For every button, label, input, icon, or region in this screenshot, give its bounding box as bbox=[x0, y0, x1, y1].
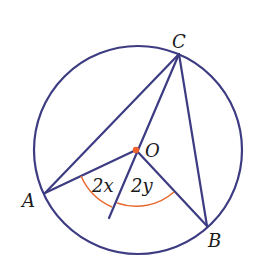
center-point-o bbox=[133, 147, 139, 153]
label-c: C bbox=[172, 31, 186, 52]
angle-label-2x: 2x bbox=[91, 175, 114, 196]
label-a: A bbox=[20, 190, 35, 211]
label-o: O bbox=[145, 140, 160, 161]
label-b: B bbox=[207, 230, 221, 251]
angle-label-2y: 2y bbox=[130, 175, 153, 196]
circle-diagram: C O A B 2x 2y bbox=[0, 0, 261, 278]
